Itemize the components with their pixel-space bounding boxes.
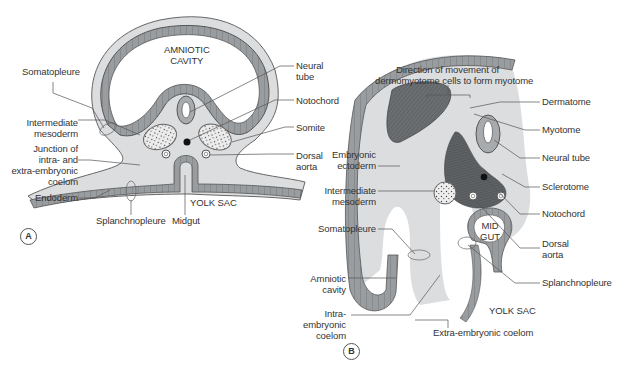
label-line: Junction of (0, 143, 78, 154)
label-somatopleure-b: Somatopleure (300, 223, 376, 234)
label-line: mesoderm (310, 196, 376, 207)
label-midgut-a: Midgut (172, 215, 200, 226)
label-line: Dorsal (542, 238, 569, 249)
label-line: Neural (296, 60, 323, 71)
label-notochord-b: Notochord (542, 208, 585, 219)
label-line: Intermediate (10, 117, 78, 128)
label-line: dermomyotome cells to form myotome (375, 75, 520, 86)
label-line: mesoderm (10, 128, 78, 139)
label-somatopleure-a: Somatopleure (22, 66, 80, 77)
label-intermediate-mesoderm-a: Intermediate mesoderm (10, 117, 78, 139)
label-splanchnopleure-b: Splanchnopleure (542, 277, 612, 288)
panel-b-badge: B (343, 343, 360, 360)
direction-note-b: Direction of movement of dermomyotome ce… (375, 64, 520, 86)
label-line: tube (296, 71, 323, 82)
label-sclerotome-b: Sclerotome (542, 181, 589, 192)
label-embryonic-ectoderm-b: Embryonic ectoderm (310, 149, 376, 171)
label-line: intra- and (0, 154, 78, 165)
label-line: coelom (290, 330, 346, 341)
label-line: Direction of movement of (375, 64, 520, 75)
label-line: aorta (542, 249, 569, 260)
amniotic-cavity-line2: CAVITY (164, 55, 210, 66)
label-dorsal-aorta-b: Dorsal aorta (542, 238, 569, 260)
amniotic-cavity-label-a: AMNIOTIC CAVITY (164, 44, 210, 66)
label-line: MID (476, 220, 504, 231)
label-somite-a: Somite (296, 122, 325, 133)
label-extra-embryonic-coelom-b: Extra-embryonic coelom (433, 327, 533, 338)
label-line: cavity (290, 284, 346, 295)
label-line: Embryonic (310, 149, 376, 160)
label-dermatome-b: Dermatome (542, 96, 591, 107)
label-line: Intra- (290, 308, 346, 319)
label-amniotic-cavity-b: Amniotic cavity (290, 273, 346, 295)
yolk-sac-label-a: YOLK SAC (190, 197, 237, 208)
label-junction-coelom-a: Junction of intra- and extra-embryonic c… (0, 143, 78, 187)
label-line: ectoderm (310, 160, 376, 171)
midgut-label-b: MID GUT (476, 220, 504, 242)
amniotic-cavity-line1: AMNIOTIC (164, 44, 210, 55)
label-neural-tube-b: Neural tube (542, 152, 590, 163)
label-line: embryonic (290, 319, 346, 330)
label-neural-tube-a: Neural tube (296, 60, 323, 82)
label-myotome-b: Myotome (542, 124, 580, 135)
label-line: Amniotic (290, 273, 346, 284)
label-notochord-a: Notochord (296, 95, 339, 106)
panel-a-badge: A (20, 228, 37, 245)
label-line: coelom (0, 176, 78, 187)
label-intra-embryonic-coelom-b: Intra- embryonic coelom (290, 308, 346, 341)
label-endoderm-a: Endoderm (10, 192, 78, 203)
label-intermediate-mesoderm-b: Intermediate mesoderm (310, 185, 376, 207)
label-line: Intermediate (310, 185, 376, 196)
label-splanchnopleure-a: Splanchnopleure (96, 215, 166, 226)
label-line: extra-embryonic (0, 165, 78, 176)
label-line: GUT (476, 231, 504, 242)
yolk-sac-label-b: YOLK SAC (489, 305, 536, 316)
